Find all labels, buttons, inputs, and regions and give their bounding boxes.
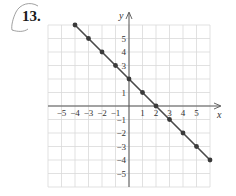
- data-point: [113, 63, 118, 68]
- x-tick-label: 5: [194, 108, 199, 118]
- y-tick-label: −3: [116, 142, 126, 152]
- y-tick-label: 5: [122, 34, 127, 44]
- y-tick-label: 3: [122, 61, 127, 71]
- x-axis-label: x: [216, 109, 222, 120]
- y-tick-label: −1: [116, 115, 126, 125]
- y-tick-label: 4: [122, 47, 127, 57]
- data-point: [140, 90, 145, 95]
- x-tick-label: −4: [70, 108, 80, 118]
- axes: xy: [48, 10, 222, 187]
- data-point: [154, 104, 159, 109]
- data-point: [167, 117, 172, 122]
- coordinate-plane: xy −5−4−3−2−1123455431−1−2−3−4−5: [0, 0, 236, 196]
- x-tick-label: −5: [57, 108, 67, 118]
- y-tick-label: −4: [116, 155, 126, 165]
- y-tick-label: 1: [122, 88, 127, 98]
- x-tick-label: 3: [167, 108, 172, 118]
- data-point: [73, 23, 78, 28]
- y-axis-label: y: [118, 10, 124, 21]
- x-tick-label: −3: [84, 108, 94, 118]
- y-tick-label: −5: [116, 169, 126, 179]
- data-point: [208, 158, 213, 163]
- data-point: [100, 50, 105, 55]
- x-tick-label: 4: [181, 108, 186, 118]
- y-tick-label: −2: [116, 128, 126, 138]
- data-point: [86, 36, 91, 41]
- x-tick-label: 1: [140, 108, 145, 118]
- data-point: [127, 77, 132, 82]
- x-tick-label: 2: [154, 108, 159, 118]
- data-point: [194, 144, 199, 149]
- x-tick-label: −2: [97, 108, 107, 118]
- data-point: [181, 131, 186, 136]
